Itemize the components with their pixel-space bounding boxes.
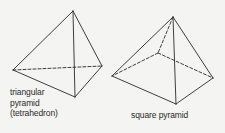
triangular-pyramid-label: triangular pyramid (tetrahedron) <box>10 87 80 119</box>
triangular-label-line1: triangular <box>10 87 80 98</box>
square-pyramid-label: square pyramid <box>131 110 188 121</box>
triangular-label-line2: pyramid <box>10 98 80 109</box>
square-pyramid <box>112 17 213 104</box>
triangular-pyramid <box>13 11 102 97</box>
triangular-label-line3: (tetrahedron) <box>10 108 80 119</box>
